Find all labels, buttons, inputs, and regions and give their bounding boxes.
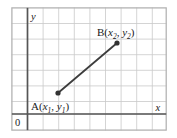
figure-canvas: y x 0 A(x1, y1) B(x2, y2): [0, 0, 177, 138]
y-axis-label: y: [30, 11, 36, 22]
origin-label: 0: [15, 117, 20, 128]
point-a-letter: A: [31, 100, 39, 112]
plot-background: [12, 8, 167, 131]
x-axis-label: x: [155, 102, 161, 113]
point-b-marker: [114, 40, 119, 45]
point-a-close-paren: ): [65, 100, 69, 113]
point-b-close-paren: ): [131, 26, 135, 39]
point-a-marker: [55, 90, 60, 95]
point-b-letter: B: [97, 26, 104, 38]
coordinate-plane-figure: y x 0 A(x1, y1) B(x2, y2): [0, 0, 177, 138]
